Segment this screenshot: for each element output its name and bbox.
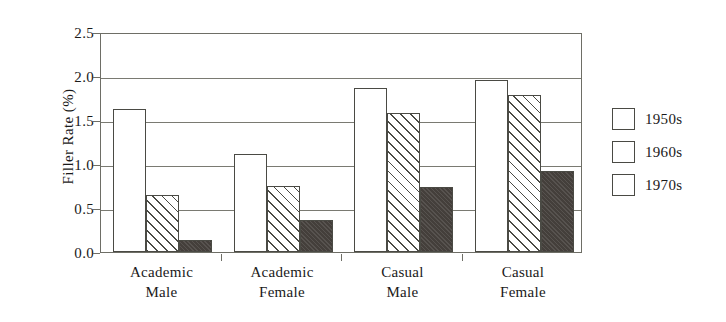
y-tick-mark-2.5 (93, 33, 100, 34)
x-category-line2: Male (92, 282, 232, 302)
bar-1960s-casual-female (508, 95, 541, 252)
x-category-label-academic-male: AcademicMale (92, 262, 232, 303)
y-tick-label-0.0: 0.0 (50, 246, 94, 261)
bar-1960s-academic-male (146, 195, 179, 252)
chart-figure: Filler Rate (%) 0.00.51.01.52.02.5 Acade… (0, 0, 726, 322)
bar-1970s-academic-female (300, 220, 333, 252)
y-tick-label-2.0: 2.0 (50, 70, 94, 85)
gridline-2.0 (101, 78, 581, 79)
x-tick-mark-1 (221, 254, 222, 261)
bar-1970s-casual-female (541, 171, 574, 252)
legend-label-1960s: 1960s (645, 144, 682, 161)
y-tick-label-0.5: 0.5 (50, 202, 94, 217)
y-tick-mark-2.0 (93, 77, 100, 78)
y-tick-label-1.0: 1.0 (50, 158, 94, 173)
legend-swatch-1960s (612, 141, 635, 163)
bar-1960s-academic-female (267, 186, 300, 252)
bar-1950s-casual-male (354, 88, 387, 252)
legend-swatch-1950s (612, 108, 635, 130)
x-category-label-casual-female: CasualFemale (453, 262, 593, 303)
y-tick-mark-0.0 (93, 253, 100, 254)
y-tick-label-1.5: 1.5 (50, 114, 94, 129)
x-category-line2: Female (212, 282, 352, 302)
bar-1970s-casual-male (420, 187, 453, 252)
x-category-line1: Academic (130, 264, 193, 280)
bar-1950s-casual-female (475, 80, 508, 253)
x-category-line2: Female (453, 282, 593, 302)
x-category-label-casual-male: CasualMale (333, 262, 473, 303)
bar-1950s-academic-male (113, 109, 146, 252)
y-tick-mark-0.5 (93, 209, 100, 210)
y-tick-mark-1.5 (93, 121, 100, 122)
plot-area (100, 33, 582, 253)
x-tick-mark-2 (341, 254, 342, 261)
x-category-line1: Casual (381, 264, 424, 280)
legend-label-1970s: 1970s (645, 177, 682, 194)
bar-1970s-academic-male (179, 240, 212, 252)
x-category-line2: Male (333, 282, 473, 302)
legend-label-1950s: 1950s (645, 111, 682, 128)
y-tick-mark-1.0 (93, 165, 100, 166)
x-category-line1: Casual (502, 264, 545, 280)
legend-swatch-1970s (612, 174, 635, 196)
y-tick-label-2.5: 2.5 (50, 26, 94, 41)
bar-1950s-academic-female (234, 154, 267, 252)
x-category-line1: Academic (250, 264, 313, 280)
x-category-label-academic-female: AcademicFemale (212, 262, 352, 303)
bar-1960s-casual-male (387, 113, 420, 252)
x-tick-mark-3 (462, 254, 463, 261)
